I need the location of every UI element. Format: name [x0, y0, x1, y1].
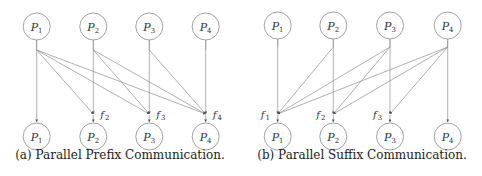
caption-prefix: (a) Parallel Prefix Communication. — [15, 148, 225, 162]
bottom-process-node: P3 — [136, 123, 163, 150]
bottom-process-node: P4 — [434, 123, 461, 150]
panel-suffix: f1f2f3P1P2P3P4P1P2P3P4 — [260, 12, 462, 150]
bottom-process-node: P4 — [192, 123, 219, 150]
edge — [278, 47, 334, 114]
edge — [278, 47, 448, 114]
function-label: f2 — [99, 109, 109, 122]
top-process-node: P3 — [377, 12, 404, 39]
communication-diagram: f2f3f4P1P2P3P4P1P2P3P4 f1f2f3P1P2P3P4P1P… — [0, 0, 482, 176]
top-process-node: P3 — [136, 13, 163, 40]
edge — [149, 50, 205, 114]
edge — [37, 50, 94, 114]
top-process-node: P1 — [23, 13, 50, 40]
bottom-process-node: P1 — [23, 123, 50, 150]
edge — [333, 47, 390, 114]
function-label: f3 — [372, 109, 382, 122]
function-label: f2 — [315, 109, 325, 122]
function-label: f3 — [155, 109, 165, 122]
edge — [93, 50, 149, 114]
edge — [333, 47, 447, 114]
panel-prefix: f2f3f4P1P2P3P4P1P2P3P4 — [23, 13, 222, 150]
bottom-process-node: P2 — [320, 123, 347, 150]
edge — [390, 47, 448, 114]
edge — [278, 47, 390, 114]
bottom-process-node: P2 — [80, 123, 107, 150]
bottom-process-node: P3 — [377, 123, 404, 150]
caption-suffix: (b) Parallel Suffix Communication. — [257, 148, 467, 162]
top-process-node: P4 — [192, 13, 219, 40]
top-process-node: P2 — [80, 13, 107, 40]
bottom-process-node: P1 — [264, 123, 291, 150]
function-label: f1 — [260, 109, 270, 122]
top-process-node: P2 — [320, 12, 347, 39]
top-process-node: P1 — [264, 12, 291, 39]
top-process-node: P4 — [434, 12, 461, 39]
function-label: f4 — [212, 109, 223, 122]
